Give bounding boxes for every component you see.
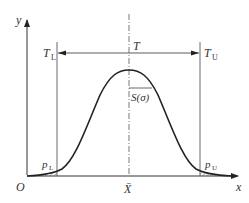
upper-limit-subscript: U [212, 53, 218, 62]
lower-limit-label: T [43, 46, 51, 60]
tolerance-label: T [133, 39, 141, 53]
normal-curve [27, 70, 232, 176]
upper-tail-label: p [204, 158, 211, 170]
origin-label: O [16, 180, 25, 194]
sigma-label: S(σ) [131, 91, 150, 104]
upper-tail-subscript: U [212, 164, 217, 172]
y-axis-label: y [15, 13, 22, 27]
mean-label: X̄ [123, 182, 132, 196]
upper-limit-label: T [204, 46, 212, 60]
lower-tail-label: p [41, 158, 48, 170]
normal-distribution-diagram: y x O T L T U T S(σ) X̄ p L p U [0, 0, 249, 203]
tolerance-arrow [58, 51, 199, 56]
lower-limit-subscript: L [51, 53, 56, 62]
x-axis-label: x [235, 180, 242, 194]
lower-tail-subscript: L [49, 164, 53, 172]
